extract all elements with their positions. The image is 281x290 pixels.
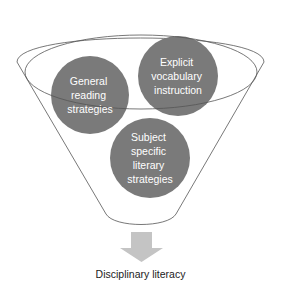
output-label: Disciplinary literacy [0, 268, 281, 280]
circle-subject-specific [110, 118, 190, 198]
label-general: General reading strategies [67, 75, 113, 115]
down-arrow-icon [120, 232, 163, 262]
funnel-diagram: General reading strategies Explicit voca… [0, 0, 281, 290]
